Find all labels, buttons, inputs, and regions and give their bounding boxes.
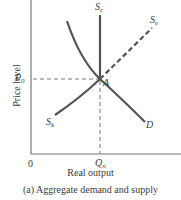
sk-label: Sk	[46, 117, 54, 127]
d-label: D	[146, 120, 153, 130]
se-label: Se	[150, 15, 158, 25]
p0-label: P0	[15, 73, 25, 83]
curve-sk	[55, 79, 100, 115]
y-axis-label: Price level	[11, 56, 22, 116]
sc-label: Sc	[95, 2, 103, 12]
figure-caption: (a) Aggregate demand and supply	[0, 184, 181, 195]
x-axis-label: Real output	[0, 167, 181, 178]
curve-se	[100, 28, 152, 79]
point-a-label: A	[103, 78, 109, 88]
curve-d	[67, 21, 145, 122]
